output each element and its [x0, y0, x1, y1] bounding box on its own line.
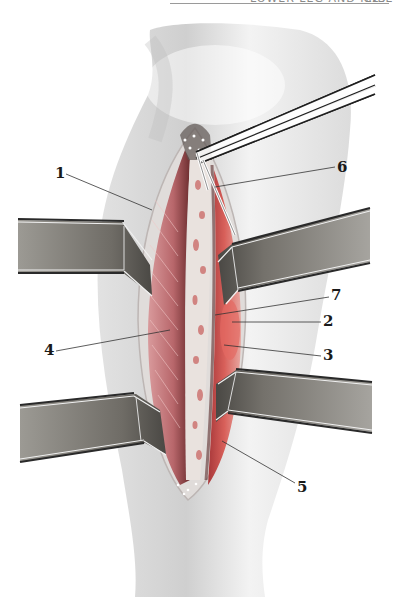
- label-2: 2: [323, 314, 333, 329]
- label-6: 6: [337, 160, 347, 175]
- label-1: 1: [55, 166, 65, 181]
- label-5: 5: [297, 480, 307, 495]
- label-3: 3: [323, 348, 333, 363]
- label-4: 4: [44, 343, 54, 358]
- label-7: 7: [331, 288, 341, 303]
